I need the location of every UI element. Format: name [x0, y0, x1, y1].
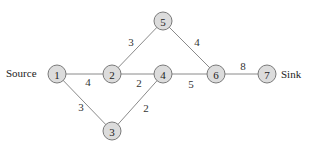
edge-weight-2-5: 3	[128, 36, 134, 48]
graph-svg: 43322458 1234567 Source Sink	[0, 0, 319, 147]
node-label: 2	[109, 69, 115, 81]
node-1: 1	[48, 65, 66, 83]
node-label: 1	[54, 69, 60, 81]
edge-weight-1-2: 4	[85, 76, 91, 88]
node-2: 2	[103, 65, 121, 83]
node-4: 4	[154, 65, 172, 83]
edge-weight-6-7: 8	[240, 60, 246, 72]
edge-5-6	[163, 21, 216, 74]
nodes-layer: 1234567	[48, 12, 276, 140]
node-label: 3	[109, 126, 115, 138]
node-label: 6	[213, 69, 219, 81]
network-diagram: 43322458 1234567 Source Sink	[0, 0, 319, 147]
edge-2-5	[112, 21, 163, 74]
edge-weight-3-4: 2	[143, 102, 149, 114]
source-label: Source	[6, 67, 37, 79]
node-label: 7	[264, 69, 270, 81]
node-7: 7	[258, 65, 276, 83]
edge-weight-4-6: 5	[188, 78, 194, 90]
sink-label: Sink	[281, 68, 302, 80]
node-label: 4	[160, 69, 166, 81]
edge-weight-2-4: 2	[136, 77, 142, 89]
node-label: 5	[160, 16, 166, 28]
node-6: 6	[207, 65, 225, 83]
node-5: 5	[154, 12, 172, 30]
node-3: 3	[103, 122, 121, 140]
edge-weight-5-6: 4	[194, 36, 200, 48]
edge-weight-1-3: 3	[78, 101, 84, 113]
